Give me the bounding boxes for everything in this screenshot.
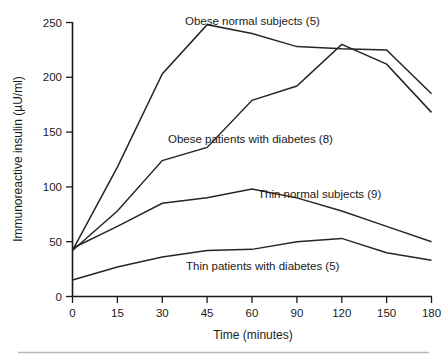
x-tick-label: 15	[111, 307, 124, 319]
x-tick-label: 150	[377, 307, 396, 319]
annotation-thin-normal-subjects: Thin normal subjects (9)	[258, 188, 382, 200]
y-tick-label: 150	[43, 126, 62, 138]
x-tick-label: 180	[422, 307, 441, 319]
y-tick-label: 0	[56, 291, 62, 303]
x-axis-title: Time (minutes)	[213, 328, 293, 342]
annotation-obese-patients-with-diabetes: Obese patients with diabetes (8)	[168, 133, 333, 145]
chart-figure: 0 50 100 150 200 250 0 15 30 45 60 90	[0, 0, 447, 361]
y-tick-label: 200	[43, 71, 62, 83]
y-tick-label: 100	[43, 181, 62, 193]
x-tick-label: 60	[246, 307, 259, 319]
annotation-thin-patients-with-diabetes: Thin patients with diabetes (5)	[186, 260, 340, 272]
x-tick-label: 90	[291, 307, 304, 319]
annotation-obese-normal-subjects: Obese normal subjects (5)	[185, 15, 320, 27]
x-tick-label: 45	[201, 307, 214, 319]
x-tick-label: 30	[156, 307, 169, 319]
y-axis-title: Immunoreactive insulin (µU/ml)	[11, 76, 25, 242]
x-tick-label: 0	[69, 307, 75, 319]
insulin-response-line-chart: 0 50 100 150 200 250 0 15 30 45 60 90	[0, 0, 447, 361]
x-tick-label: 120	[332, 307, 351, 319]
y-tick-label: 50	[49, 236, 62, 248]
y-tick-label: 250	[43, 17, 62, 29]
